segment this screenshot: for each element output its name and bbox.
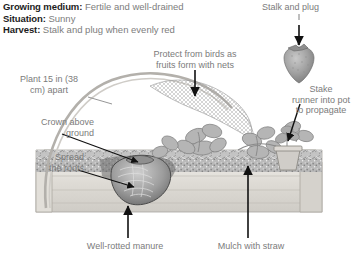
callout-stake-runner: Stake runner into pot to propagate bbox=[282, 84, 360, 116]
callout-crown-above-ground: Crown above ground bbox=[12, 117, 94, 138]
leader-plant-spacing bbox=[88, 97, 112, 104]
strawberry-growing-diagram: Growing medium: Fertile and well-drained… bbox=[0, 0, 360, 257]
callout-protect-from-birds: Protect from birds as fruits form with n… bbox=[136, 49, 254, 70]
crown-knot bbox=[126, 156, 154, 165]
callout-mulch-with-straw: Mulch with straw bbox=[196, 241, 306, 252]
callout-stalk-and-plug: Stalk and plug bbox=[262, 2, 358, 13]
strawberry-fruit-icon bbox=[284, 40, 314, 83]
callout-spread-the-roots: Spread the roots bbox=[6, 152, 84, 173]
callout-plant-spacing: Plant 15 in (38 cm) apart bbox=[6, 74, 92, 95]
callout-well-rotted-manure: Well-rotted manure bbox=[70, 241, 180, 252]
